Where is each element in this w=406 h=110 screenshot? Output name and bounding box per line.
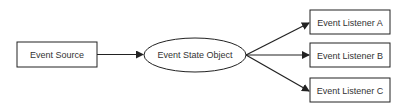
event-source-label: Event Source [30,50,84,60]
event-diagram: Event Source Event State Object Event Li… [0,0,406,110]
event-listener-c-label: Event Listener C [317,86,384,96]
event-state-object-label: Event State Object [157,50,233,60]
edge-state-to-listener-c [246,55,309,91]
event-listener-c-node: Event Listener C [310,78,390,102]
event-state-object-node: Event State Object [144,38,246,72]
event-source-node: Event Source [17,42,97,67]
event-listener-b-label: Event Listener B [317,51,383,61]
event-listener-a-node: Event Listener A [310,10,390,34]
event-listener-b-node: Event Listener B [310,43,390,67]
event-listener-a-label: Event Listener A [317,18,383,28]
edge-state-to-listener-a [246,23,309,55]
